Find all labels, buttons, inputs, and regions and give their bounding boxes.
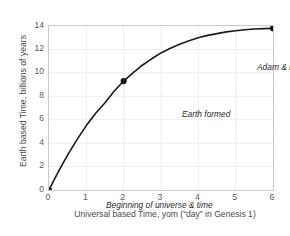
- annotation-earth-formed: Earth formed: [182, 110, 230, 118]
- x-tick-label: 4: [187, 193, 207, 202]
- x-axis-title: Universal based Time, yom (“day” in Gene…: [40, 209, 290, 219]
- y-tick-label: 8: [26, 91, 44, 100]
- y-tick-label: 0: [26, 185, 44, 194]
- y-tick-label: 6: [26, 114, 44, 123]
- plot-svg: [49, 26, 273, 190]
- y-tick-label: 12: [26, 44, 44, 53]
- x-tick-label: 6: [262, 193, 282, 202]
- data-point-marker: [49, 187, 52, 190]
- chart-figure: Earth based Time, billions of years 0246…: [0, 0, 290, 236]
- x-tick-label: 5: [225, 193, 245, 202]
- annotation-adam-and-eve: Adam & Eve: [257, 63, 290, 71]
- x-tick-label: 3: [150, 193, 170, 202]
- y-tick-label: 14: [26, 21, 44, 30]
- y-tick-label: 4: [26, 138, 44, 147]
- x-tick-label: 1: [75, 193, 95, 202]
- data-point-marker: [270, 26, 273, 31]
- x-axis-tick-labels: 0123456: [0, 193, 290, 207]
- plot-area: Beginning of universe & time Earth forme…: [48, 25, 274, 191]
- y-tick-label: 2: [26, 161, 44, 170]
- gridlines: [49, 26, 273, 190]
- x-tick-label: 2: [113, 193, 133, 202]
- y-tick-label: 10: [26, 67, 44, 76]
- data-point-marker: [121, 78, 127, 84]
- x-tick-label: 0: [38, 193, 58, 202]
